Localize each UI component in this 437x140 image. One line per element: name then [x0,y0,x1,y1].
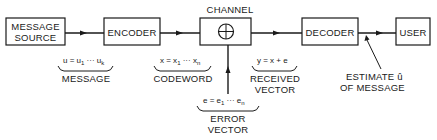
encoder-block: ENCODER [104,18,160,45]
arrowhead-icon [176,31,183,36]
codeword-annotation: x = x1 ··· xn CODEWORD [153,56,212,84]
decoder-block: DECODER [302,18,358,45]
channel-block: CHANNEL [200,4,253,45]
message-source-label-1: MESSAGE [11,21,59,32]
channel-label: CHANNEL [207,4,254,15]
encoder-label: ENCODER [108,27,157,38]
estimate-pointer [367,40,381,69]
received-label-2: VECTOR [255,84,296,95]
svg-text:e = e1 ··· en: e = e1 ··· en [203,96,245,106]
decoder-label: DECODER [306,27,355,38]
error-brace [197,106,259,111]
arrowhead-icon [273,31,280,36]
message-annotation: u = u1 ··· uk MESSAGE [58,56,113,84]
estimate-annotation: ESTIMATE û OF MESSAGE [340,71,405,93]
error-label-1: ERROR [210,113,245,124]
message-label: MESSAGE [62,73,110,84]
error-label-2: VECTOR [208,124,249,135]
received-brace [252,66,297,71]
arrowhead-icon [376,31,383,36]
estimate-label-1: ESTIMATE û [346,71,403,82]
codeword-brace [154,66,211,71]
svg-text:u = u1 ··· uk: u = u1 ··· uk [63,56,105,66]
user-block: USER [396,18,430,45]
message-brace [58,66,113,71]
received-annotation: y = x + e RECEIVED VECTOR [250,56,300,95]
user-label: USER [399,27,426,38]
codeword-label: CODEWORD [153,73,212,84]
message-source-block: MESSAGE SOURCE [6,18,65,45]
svg-text:x = x1 ··· xn: x = x1 ··· xn [160,56,200,66]
error-annotation: e = e1 ··· en ERROR VECTOR [197,96,259,135]
arrowhead-icon [80,31,87,36]
message-source-label-2: SOURCE [15,32,57,43]
estimate-label-2: OF MESSAGE [340,82,405,93]
received-label-1: RECEIVED [250,73,300,84]
communication-diagram: MESSAGE SOURCE ENCODER CHANNEL DECODER U… [0,0,437,140]
received-formula: y = x + e [257,56,288,65]
arrowhead-icon [226,66,231,73]
